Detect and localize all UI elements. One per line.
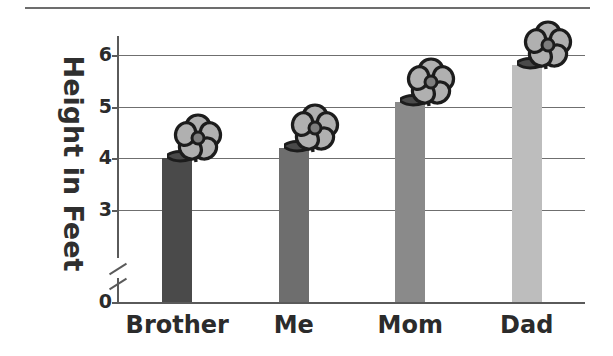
y-axis-line <box>117 36 119 258</box>
axis-break-slash-upper <box>109 263 127 275</box>
y-tick-label-row: 6 <box>86 45 112 64</box>
x-axis-line <box>117 302 585 304</box>
bar-mom <box>395 102 425 303</box>
y-tick-label-row: 3 <box>86 200 112 219</box>
x-label-brother: Brother <box>119 310 236 340</box>
y-axis-title: Height in Feet <box>58 39 89 289</box>
y-tick-label-row: 0 <box>86 292 112 311</box>
bar-chart: Height in Feet 03456 <box>0 0 613 356</box>
bar-me <box>279 148 309 302</box>
y-tick-label-6: 6 <box>90 45 112 64</box>
gridline-6 <box>119 55 585 56</box>
flower-icon <box>284 102 346 158</box>
y-tick-label-4: 4 <box>90 148 112 167</box>
x-label-mom: Mom <box>352 310 469 340</box>
x-label-dad: Dad <box>469 310 586 340</box>
y-tick-mark-5 <box>112 107 119 109</box>
y-tick-label-5: 5 <box>90 97 112 116</box>
y-tick-mark-6 <box>112 55 119 57</box>
x-label-me: Me <box>236 310 353 340</box>
bar-dad <box>512 65 542 302</box>
y-tick-label-row: 5 <box>86 97 112 116</box>
bar-brother <box>162 158 192 302</box>
y-tick-label-3: 3 <box>90 200 112 219</box>
y-tick-label-row: 4 <box>86 148 112 167</box>
flower-icon <box>167 112 229 168</box>
flower-icon <box>517 19 579 75</box>
y-tick-label-0: 0 <box>90 292 112 311</box>
y-tick-mark-4 <box>112 158 119 160</box>
y-tick-mark-0 <box>112 302 119 304</box>
y-tick-mark-3 <box>112 210 119 212</box>
flower-icon <box>400 56 462 112</box>
